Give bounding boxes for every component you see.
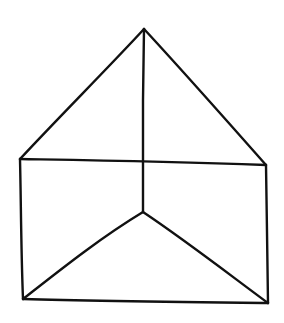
house-box-sketch — [0, 0, 284, 323]
drawing-canvas — [0, 0, 284, 323]
vertical-center-edge — [143, 29, 144, 212]
